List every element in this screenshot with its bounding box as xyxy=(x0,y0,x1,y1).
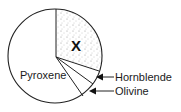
label-olivine: Olivine xyxy=(115,85,149,97)
label-hornblende: Hornblende xyxy=(115,71,172,83)
hornblende-arrow-icon xyxy=(96,74,103,81)
label-pyroxene: Pyroxene xyxy=(20,69,66,81)
label-x: X xyxy=(71,37,81,54)
olivine-arrow-icon xyxy=(89,88,96,95)
mineral-composition-pie-diagram: X Pyroxene Hornblende Olivine xyxy=(0,0,181,112)
